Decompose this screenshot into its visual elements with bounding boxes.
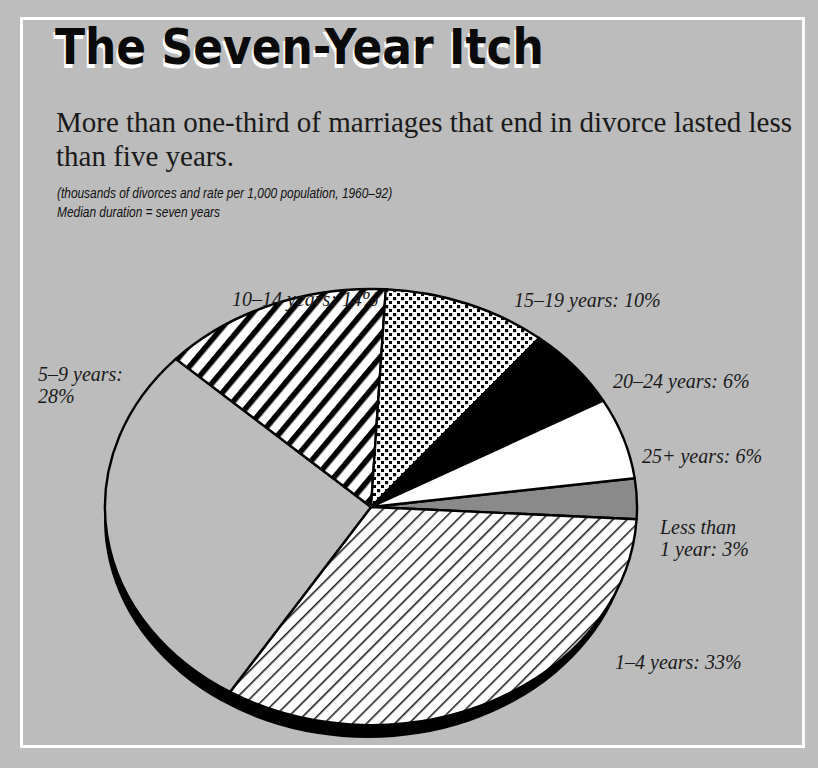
label-less-than-1-year-line1: Less than bbox=[660, 516, 736, 538]
label-1-4-years: 1–4 years: 33% bbox=[615, 651, 742, 673]
label-5-9-years-line2: 28% bbox=[38, 385, 75, 407]
label-less-than-1-year-line2: 1 year: 3% bbox=[660, 538, 749, 560]
label-5-9-years-line1: 5–9 years: bbox=[38, 363, 123, 385]
label-25-plus-years: 25+ years: 6% bbox=[642, 445, 762, 467]
label-10-14-years: 10–14 years: 14% bbox=[232, 288, 379, 310]
label-15-19-years: 15–19 years: 10% bbox=[514, 289, 661, 311]
label-20-24-years: 20–24 years: 6% bbox=[613, 370, 750, 392]
